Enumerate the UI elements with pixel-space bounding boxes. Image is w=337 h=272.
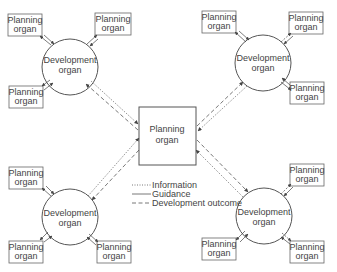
organ-network-diagram: Planning organ Development organ Develop… [0,0,337,272]
svg-text:organ: organ [207,248,230,258]
svg-text:organ: organ [58,65,81,75]
diagram: Planning organ Development organ Develop… [0,0,337,272]
svg-text:organ: organ [13,24,36,34]
svg-text:Development: Development [43,55,97,65]
development-organ-bottom-right: Development organ [236,188,292,244]
svg-text:organ: organ [14,177,37,187]
svg-text:organ: organ [14,251,37,261]
svg-text:organ: organ [252,217,275,227]
svg-text:Development: Development [43,208,97,218]
svg-text:organ: organ [295,92,318,102]
svg-text:Development: Development [236,53,290,63]
svg-text:organ: organ [155,135,178,145]
svg-text:organ: organ [295,174,318,184]
legend-development-outcome: Development outcome [152,198,242,208]
svg-text:Development: Development [237,207,291,217]
svg-text:organ: organ [101,23,124,33]
svg-text:organ: organ [102,251,125,261]
svg-text:organ: organ [295,251,318,261]
svg-text:organ: organ [251,63,274,73]
development-organ-top-left: Development organ [42,39,98,95]
legend: Information Guidance Development outcome [132,180,242,208]
svg-text:organ: organ [294,22,317,32]
svg-text:organ: organ [207,21,230,31]
svg-text:organ: organ [58,218,81,228]
central-planning-organ: Planning organ [139,107,196,165]
development-organ-bottom-left: Development organ [42,189,98,245]
svg-text:organ: organ [14,96,37,106]
svg-text:Planning: Planning [149,124,184,134]
development-organ-top-right: Development organ [235,35,291,91]
